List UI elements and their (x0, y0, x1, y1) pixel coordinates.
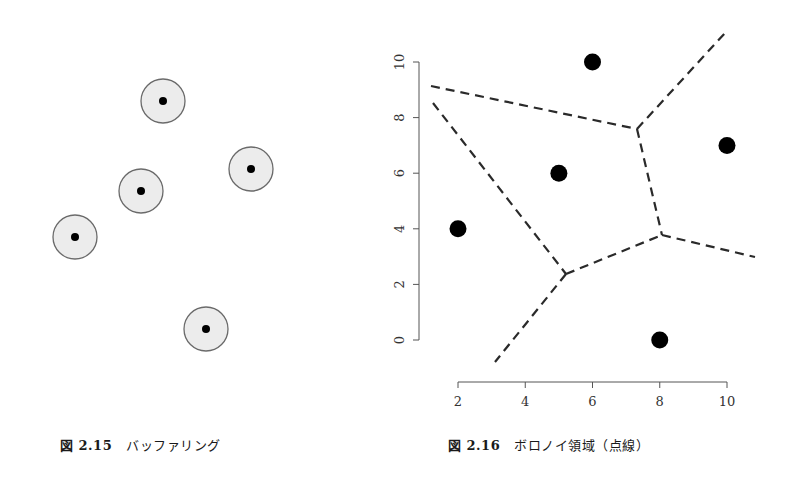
voronoi-edge (662, 235, 755, 257)
data-point (584, 54, 601, 71)
x-tick-label: 6 (588, 394, 596, 409)
point-marker (137, 187, 145, 195)
caption-text: バッファリング (126, 438, 221, 453)
y-tick-label: 0 (392, 336, 407, 344)
point-marker (247, 165, 255, 173)
point-marker (71, 233, 79, 241)
caption-text: ボロノイ領域（点線） (514, 438, 649, 453)
buffered-point (229, 147, 273, 191)
y-tick-label: 6 (392, 169, 407, 177)
voronoi-edges (431, 33, 755, 362)
voronoi-edge (566, 235, 662, 274)
caption-number: 図 2.16 (448, 438, 500, 453)
x-axis-tick-labels: 246810 (454, 394, 735, 409)
data-point (719, 137, 736, 154)
buffered-point (53, 215, 97, 259)
data-point (450, 220, 467, 237)
buffering-figure (53, 79, 273, 351)
x-tick-label: 2 (454, 394, 462, 409)
data-point (651, 332, 668, 349)
buffered-point (184, 307, 228, 351)
x-tick-label: 8 (656, 394, 664, 409)
figure-caption-2-16: 図 2.16ボロノイ領域（点線） (448, 435, 649, 454)
y-tick-label: 10 (392, 54, 407, 71)
y-tick-label: 4 (392, 225, 407, 233)
figure-caption-2-15: 図 2.15バッファリング (60, 435, 221, 454)
voronoi-edge (431, 86, 637, 129)
buffered-point (119, 169, 163, 213)
y-tick-label: 2 (392, 280, 407, 288)
x-tick-label: 4 (521, 394, 529, 409)
voronoi-edge (433, 103, 566, 274)
voronoi-edge (637, 129, 662, 235)
point-marker (202, 325, 210, 333)
y-axis (413, 62, 419, 340)
x-axis (458, 382, 727, 388)
voronoi-edge (495, 274, 566, 362)
y-axis-tick-labels: 0246810 (392, 54, 407, 344)
voronoi-chart: 0246810 246810 (392, 33, 755, 409)
voronoi-edge (637, 33, 725, 129)
data-point (550, 165, 567, 182)
caption-number: 図 2.15 (60, 438, 112, 453)
figures-canvas: 0246810 246810 (0, 0, 793, 479)
x-tick-label: 10 (719, 394, 736, 409)
point-marker (159, 97, 167, 105)
y-tick-label: 8 (392, 113, 407, 121)
buffered-point (141, 79, 185, 123)
